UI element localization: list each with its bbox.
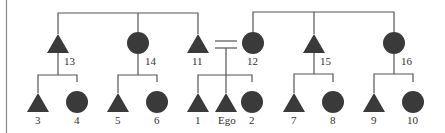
male-triangle-icon <box>47 34 69 53</box>
connector-lines <box>38 12 413 93</box>
label-11: 11 <box>192 55 203 67</box>
label-14: 14 <box>145 55 157 67</box>
kinship-diagram: 13 14 11 12 15 16 3 4 5 6 1 Ego 2 7 8 9 … <box>0 0 445 133</box>
label-1: 1 <box>195 114 201 126</box>
label-10: 10 <box>407 114 419 126</box>
female-circle-icon <box>66 91 88 113</box>
label-12: 12 <box>247 55 258 67</box>
ego-triangle-icon <box>215 93 237 112</box>
male-triangle-icon <box>363 93 385 112</box>
sibling-bar-7-8 <box>294 74 333 93</box>
label-5: 5 <box>115 114 121 126</box>
female-circle-icon <box>322 91 344 113</box>
label-9: 9 <box>371 114 377 126</box>
label-13: 13 <box>64 55 76 67</box>
label-6: 6 <box>154 114 160 126</box>
male-triangle-icon <box>283 93 305 112</box>
label-8: 8 <box>330 114 336 126</box>
male-triangle-icon <box>303 34 325 53</box>
label-2: 2 <box>249 114 255 126</box>
label-7: 7 <box>291 114 297 126</box>
label-ego: Ego <box>218 114 236 126</box>
female-circle-icon <box>241 91 263 113</box>
sibling-bar-12-15-16 <box>253 12 394 32</box>
sibling-bar-9-10 <box>374 74 413 93</box>
label-4: 4 <box>74 114 80 126</box>
male-triangle-icon <box>187 34 209 53</box>
female-circle-icon <box>402 91 424 113</box>
female-circle-icon <box>383 32 405 54</box>
node-labels: 13 14 11 12 15 16 3 4 5 6 1 Ego 2 7 8 9 … <box>35 55 419 126</box>
label-15: 15 <box>320 55 332 67</box>
female-circle-icon <box>127 32 149 54</box>
sibling-bar-1-ego-2 <box>198 75 252 93</box>
male-triangle-icon <box>187 93 209 112</box>
female-circle-icon <box>242 32 264 54</box>
sibling-bar-5-6 <box>118 75 157 93</box>
male-triangle-icon <box>107 93 129 112</box>
label-3: 3 <box>35 114 41 126</box>
sibling-bar-3-4 <box>38 75 77 93</box>
label-16: 16 <box>401 55 413 67</box>
sibling-bar-13-14-11 <box>58 13 198 34</box>
female-circle-icon <box>146 91 168 113</box>
male-triangle-icon <box>27 93 49 112</box>
